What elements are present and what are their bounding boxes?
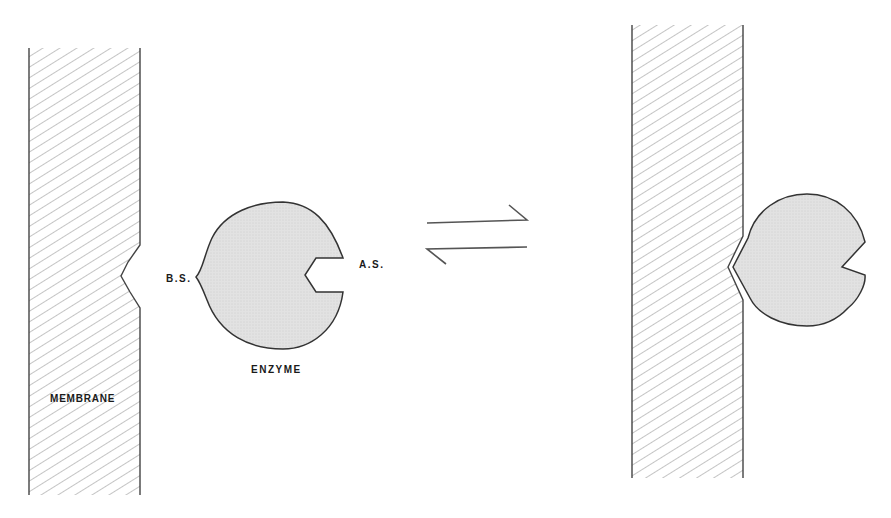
right-membrane [632, 25, 743, 478]
diagram-canvas [0, 0, 891, 518]
active-site-label: A.S. [359, 259, 384, 270]
enzyme-label: ENZYME [251, 364, 302, 375]
membrane-label: MEMBRANE [50, 393, 115, 404]
binding-site-label: B.S. [166, 273, 191, 284]
bound-enzyme [733, 194, 865, 326]
left-membrane [29, 48, 140, 495]
reversible-arrows-icon [427, 205, 527, 264]
free-enzyme [196, 202, 343, 349]
